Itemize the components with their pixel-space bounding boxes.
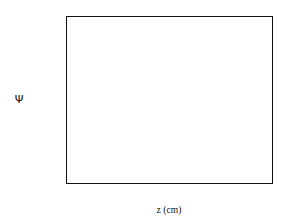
x-axis-title: z (cm) (157, 204, 182, 216)
plot-frame (67, 17, 273, 184)
y-axis-title: Ψ (15, 93, 24, 106)
chart-figure: z (cm) Ψ (0, 0, 288, 222)
chart-canvas: z (cm) Ψ (0, 0, 288, 222)
